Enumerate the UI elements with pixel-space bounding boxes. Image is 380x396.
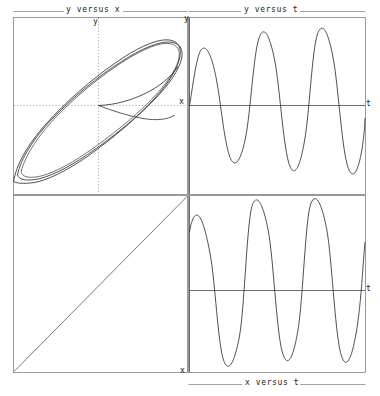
x-versus-t-waveform [190, 199, 366, 367]
phase-transient-return [99, 106, 175, 120]
x-versus-t-panel-content [189, 196, 365, 372]
phase-panel-title: y versus x [66, 5, 120, 14]
y-versus-t-panel-t-axis-label: t [366, 99, 371, 108]
x-versus-t-panel-t-axis-label: t [366, 284, 371, 293]
phase-panel-y-axis-label: y [93, 17, 98, 26]
four-panel-plot-figure: y versus x y versus t x versus t y x y t… [0, 0, 380, 396]
y-versus-t-panel-y-axis-label: y [184, 14, 189, 23]
ramp-panel-content [14, 197, 187, 372]
phase-orbit-third [21, 43, 179, 177]
phase-panel-content [14, 18, 187, 194]
phase-panel-x-axis-label: x [179, 97, 184, 106]
y-versus-t-panel-content [189, 18, 365, 194]
phase-orbit-outer [14, 40, 181, 184]
y-versus-t-panel-title: y versus t [244, 5, 298, 14]
x-versus-t-panel-x-axis-label: x [180, 366, 185, 375]
x-versus-t-panel-title: x versus t [245, 378, 299, 387]
plot-canvas [0, 0, 380, 396]
ramp-line [14, 197, 187, 372]
y-versus-t-waveform [190, 28, 366, 174]
phase-orbit-inner [18, 42, 183, 180]
